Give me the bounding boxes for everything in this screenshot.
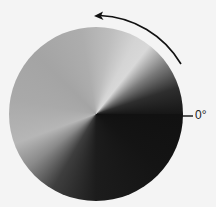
- annotation-layer: [0, 0, 216, 207]
- zero-degree-label: 0°: [195, 108, 206, 122]
- rotation-arrow-arc: [100, 16, 181, 65]
